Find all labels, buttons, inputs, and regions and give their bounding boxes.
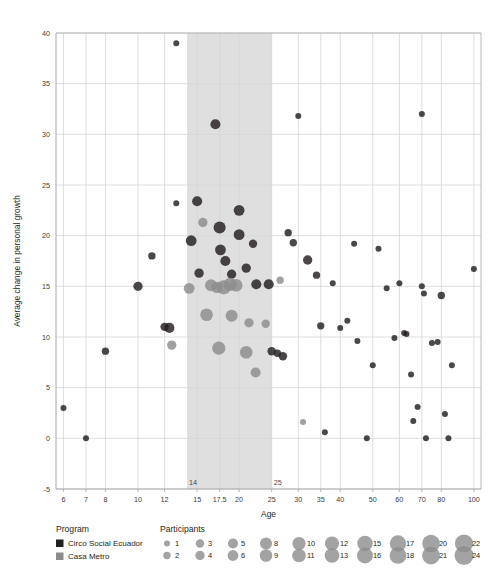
- data-point-s0-58[interactable]: [322, 429, 328, 435]
- data-point-s0-56[interactable]: [449, 362, 455, 368]
- data-point-s0-12[interactable]: [210, 119, 220, 129]
- legend-size-marker-9[interactable]: [260, 549, 273, 562]
- legend-size-marker-24[interactable]: [455, 546, 474, 565]
- data-point-s0-1[interactable]: [83, 435, 89, 441]
- data-point-s1-9[interactable]: [226, 310, 238, 322]
- data-point-s0-33[interactable]: [337, 325, 343, 331]
- x-axis-title: Age: [261, 509, 276, 519]
- legend-program-title: Program: [56, 524, 89, 534]
- legend-size-label-24: 24: [472, 551, 480, 560]
- data-point-s0-18[interactable]: [234, 229, 245, 240]
- data-point-s0-14[interactable]: [215, 244, 226, 255]
- data-point-s0-19[interactable]: [242, 263, 251, 272]
- data-point-s0-40[interactable]: [391, 335, 397, 341]
- data-point-s1-16[interactable]: [300, 419, 306, 425]
- legend-size-marker-4[interactable]: [195, 551, 204, 560]
- data-point-s0-20[interactable]: [249, 240, 257, 248]
- data-point-s0-11[interactable]: [194, 269, 203, 278]
- legend-size-marker-21[interactable]: [422, 547, 440, 565]
- data-point-s0-28[interactable]: [295, 113, 301, 119]
- data-point-s0-17[interactable]: [234, 205, 245, 216]
- legend-size-label-17: 17: [406, 539, 414, 548]
- legend-swatch-1[interactable]: [56, 553, 64, 561]
- legend-size-marker-16[interactable]: [357, 548, 373, 564]
- data-point-s0-34[interactable]: [344, 318, 350, 324]
- data-point-s0-48[interactable]: [419, 283, 425, 289]
- data-point-s0-22[interactable]: [264, 279, 274, 289]
- legend-size-marker-8[interactable]: [260, 537, 272, 549]
- data-point-s0-46[interactable]: [415, 404, 421, 410]
- legend-size-marker-5[interactable]: [228, 538, 238, 548]
- data-point-s0-27[interactable]: [290, 239, 297, 246]
- data-point-s0-53[interactable]: [438, 292, 445, 299]
- data-point-s0-9[interactable]: [186, 235, 197, 246]
- legend-size-marker-3[interactable]: [196, 539, 204, 547]
- data-point-s1-1[interactable]: [184, 283, 195, 294]
- legend-size-marker-13[interactable]: [325, 548, 340, 563]
- data-point-s0-0[interactable]: [60, 405, 66, 411]
- data-point-s0-51[interactable]: [429, 340, 435, 346]
- legend-program-label-1: Casa Metro: [68, 552, 110, 561]
- data-point-s1-0[interactable]: [167, 340, 176, 349]
- legend-size-marker-18[interactable]: [390, 547, 407, 564]
- legend-size-marker-10[interactable]: [292, 537, 305, 550]
- data-point-s0-16[interactable]: [227, 270, 236, 279]
- data-point-s0-21[interactable]: [251, 279, 261, 289]
- y-tick-label-4: 15: [42, 282, 50, 291]
- data-point-s0-41[interactable]: [396, 280, 402, 286]
- data-point-s0-30[interactable]: [313, 272, 320, 279]
- data-point-s0-52[interactable]: [435, 339, 441, 345]
- data-point-s0-59[interactable]: [364, 435, 370, 441]
- legend-size-marker-2[interactable]: [163, 552, 170, 559]
- data-point-s0-45[interactable]: [410, 418, 416, 424]
- data-point-s1-8[interactable]: [200, 308, 213, 321]
- data-point-s0-55[interactable]: [445, 435, 451, 441]
- legend-size-marker-1[interactable]: [164, 541, 170, 547]
- data-point-s0-57[interactable]: [471, 266, 477, 272]
- band-start-label: 14: [189, 478, 197, 487]
- data-point-s1-7[interactable]: [230, 279, 243, 292]
- data-point-s0-54[interactable]: [442, 411, 448, 417]
- data-point-s0-50[interactable]: [423, 435, 429, 441]
- data-point-s1-12[interactable]: [244, 318, 253, 327]
- data-point-s0-25[interactable]: [279, 352, 287, 360]
- data-point-s0-44[interactable]: [408, 371, 414, 377]
- data-point-s0-39[interactable]: [384, 285, 390, 291]
- legend-swatch-0[interactable]: [56, 540, 64, 548]
- data-point-s1-13[interactable]: [251, 367, 261, 377]
- data-point-s0-7[interactable]: [173, 40, 179, 46]
- data-point-s0-8[interactable]: [173, 200, 179, 206]
- x-tick-label-5: 15: [193, 495, 201, 504]
- data-point-s0-49[interactable]: [421, 290, 427, 296]
- data-point-s0-29[interactable]: [303, 255, 312, 264]
- data-point-s1-14[interactable]: [262, 320, 270, 328]
- data-point-s0-31[interactable]: [317, 322, 324, 329]
- x-tick-label-2: 8: [103, 495, 107, 504]
- data-point-s0-4[interactable]: [148, 252, 155, 259]
- data-point-s0-32[interactable]: [330, 280, 336, 286]
- data-point-s0-26[interactable]: [285, 229, 292, 236]
- data-point-s0-13[interactable]: [214, 222, 226, 234]
- data-point-s0-47[interactable]: [419, 111, 425, 117]
- data-point-s0-15[interactable]: [220, 256, 230, 266]
- data-point-s0-2[interactable]: [102, 348, 109, 355]
- legend-size-label-15: 15: [373, 539, 381, 548]
- data-point-s0-35[interactable]: [351, 241, 357, 247]
- data-point-s0-36[interactable]: [354, 338, 360, 344]
- x-tick-label-7: 20: [235, 495, 243, 504]
- data-point-s1-10[interactable]: [212, 342, 225, 355]
- data-point-s0-6[interactable]: [164, 323, 174, 333]
- data-point-s0-43[interactable]: [403, 331, 409, 337]
- data-point-s1-15[interactable]: [276, 277, 283, 284]
- data-point-s1-11[interactable]: [240, 346, 253, 359]
- data-point-s0-3[interactable]: [133, 282, 142, 291]
- data-point-s0-38[interactable]: [375, 246, 381, 252]
- x-tick-label-8: 25: [268, 495, 276, 504]
- legend-size-marker-11[interactable]: [292, 549, 306, 563]
- legend-size-label-18: 18: [406, 551, 414, 560]
- data-point-s1-2[interactable]: [198, 218, 207, 227]
- data-point-s0-10[interactable]: [192, 196, 202, 206]
- legend-size-marker-6[interactable]: [228, 550, 239, 561]
- data-point-s0-37[interactable]: [370, 362, 376, 368]
- y-tick-label-1: 0: [46, 434, 50, 443]
